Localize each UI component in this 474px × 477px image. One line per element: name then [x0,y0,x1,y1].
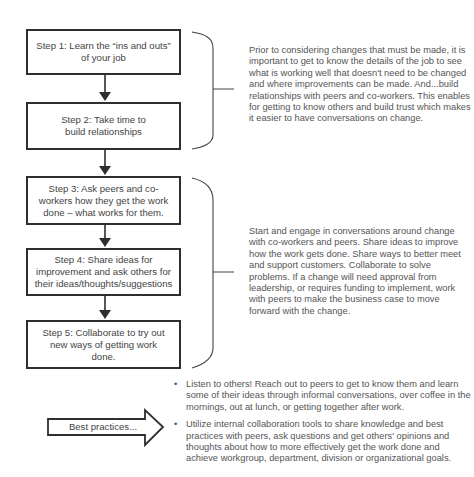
step-3-box: Step 3: Ask peers and co-workers how the… [26,176,181,225]
step-3-label: Step 3: Ask peers and co-workers how the… [34,183,173,219]
brace-group1 [192,32,234,149]
best-practices-label: Best practices... [60,420,146,434]
step-2-box: Step 2: Take time to build relationships [26,102,181,150]
step-arrow-4-5 [99,296,111,319]
step-2-label: Step 2: Take time to build relationships [34,114,173,138]
step-arrow-3-4 [99,225,111,247]
best-practice-text: Listen to others! Reach out to peers to … [186,379,471,412]
step-5-box: Step 5: Collaborate to try out new ways … [26,320,181,369]
bullet-icon: • [174,379,177,390]
group2-description: Start and engage in conversations around… [249,226,471,317]
step-4-box: Step 4: Share ideas for improvement and … [26,248,181,296]
best-practice-text: Utilize internal collaboration tools to … [186,419,451,463]
step-1-label: Step 1: Learn the “ins and outs” of your… [34,40,173,64]
best-practice-item: • Listen to others! Reach out to peers t… [172,379,472,413]
brace-group2 [192,178,234,368]
step-4-label: Step 4: Share ideas for improvement and … [34,254,173,290]
step-1-box: Step 1: Learn the “ins and outs” of your… [26,29,181,75]
bullet-icon: • [174,419,177,430]
group1-description: Prior to considering changes that must b… [249,45,471,125]
best-practices-list: • Listen to others! Reach out to peers t… [172,379,472,471]
best-practice-item: • Utilize internal collaboration tools t… [172,419,472,465]
step-arrow-1-2 [99,75,111,101]
step-5-label: Step 5: Collaborate to try out new ways … [34,327,173,363]
step-arrow-2-3 [99,150,111,175]
